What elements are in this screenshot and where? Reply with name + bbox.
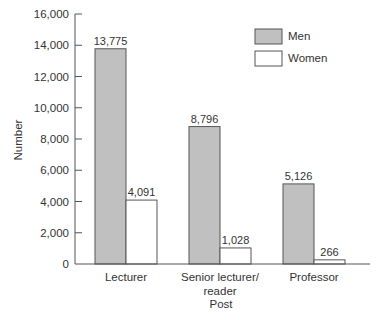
x-category-label: reader [203, 285, 236, 297]
bars: 13,7754,0918,7961,0285,126266 [94, 35, 345, 264]
bar-value-label: 8,796 [191, 113, 219, 125]
legend-label: Men [288, 30, 310, 42]
x-axis-title: Post [209, 298, 233, 310]
bar-value-label: 5,126 [285, 170, 313, 182]
bar-women [220, 248, 251, 264]
bar-chart: 02,0004,0006,0008,00010,00012,00014,0001… [0, 0, 382, 320]
y-tick-label: 8,000 [40, 133, 69, 145]
y-axis-title: Number [12, 119, 24, 160]
bar-men [95, 49, 126, 264]
y-tick-label: 16,000 [34, 8, 69, 20]
legend-swatch-men [255, 29, 282, 44]
bar-women [314, 260, 345, 264]
y-tick-label: 10,000 [34, 102, 69, 114]
bar-value-label: 13,775 [94, 35, 128, 47]
y-axis: 02,0004,0006,0008,00010,00012,00014,0001… [34, 8, 82, 270]
bar-value-label: 4,091 [128, 186, 156, 198]
y-tick-label: 14,000 [34, 39, 69, 51]
x-category-label: Lecturer [105, 271, 147, 283]
bar-men [283, 184, 314, 264]
y-tick-label: 12,000 [34, 71, 69, 83]
y-tick-label: 2,000 [40, 227, 69, 239]
y-tick-label: 0 [63, 258, 69, 270]
x-axis: LecturerSenior lecturer/readerProfessor [75, 264, 370, 297]
x-category-label: Professor [289, 271, 338, 283]
bar-value-label: 266 [320, 246, 338, 258]
legend-label: Women [288, 52, 327, 64]
bar-value-label: 1,028 [222, 234, 250, 246]
y-tick-label: 6,000 [40, 164, 69, 176]
bar-men [189, 127, 220, 264]
legend-swatch-women [255, 51, 282, 66]
legend: MenWomen [255, 29, 327, 66]
x-category-label: Senior lecturer/ [181, 271, 260, 283]
y-tick-label: 4,000 [40, 196, 69, 208]
bar-women [126, 200, 157, 264]
